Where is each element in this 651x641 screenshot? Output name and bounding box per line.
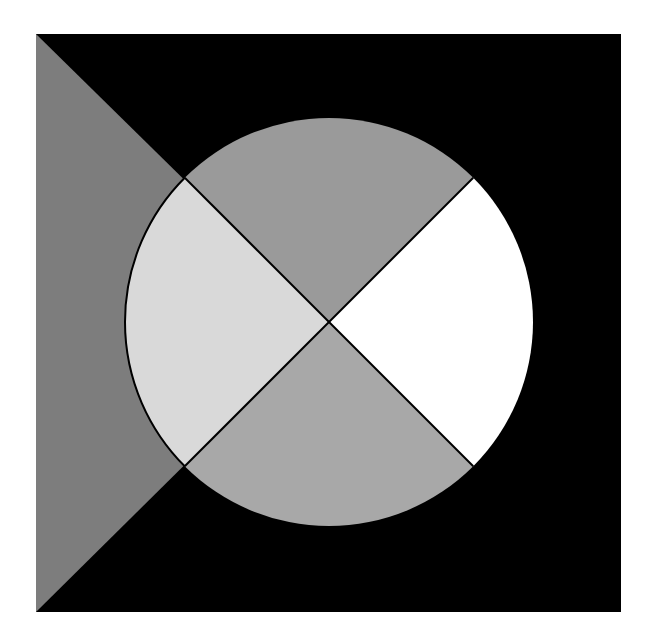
- geometric-figure: [0, 0, 651, 641]
